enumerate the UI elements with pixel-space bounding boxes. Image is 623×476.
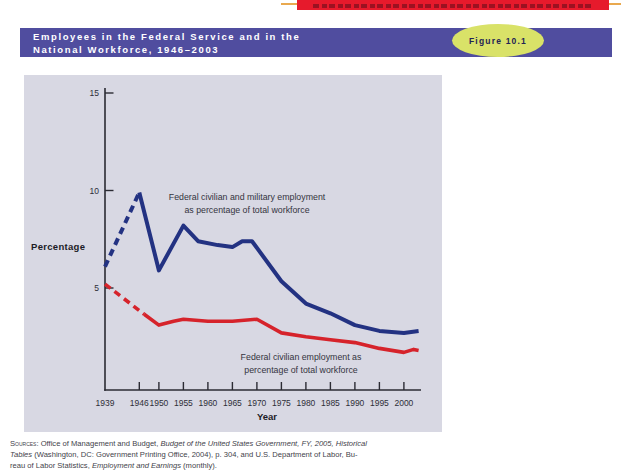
source-cited-title: Budget of the United States Government, … [160,439,367,448]
annotation-line: Federal civilian and military employment [122,191,372,204]
page: Employees in the Federal Service and in … [0,0,623,476]
source-note: Sources: Office of Management and Budget… [10,439,550,471]
svg-text:1985: 1985 [321,398,340,408]
source-text: (monthly). [181,461,217,470]
source-text: (Washington, DC: Government Printing Off… [32,450,357,459]
svg-text:1965: 1965 [223,398,242,408]
source-text: Office of Management and Budget, [39,439,161,448]
svg-text:10: 10 [90,186,100,196]
figure-title-line1: Employees in the Federal Service and in … [33,31,300,42]
svg-text:1955: 1955 [174,398,193,408]
annotation-line: Federal civilian employment as [174,351,428,364]
svg-text:2000: 2000 [394,398,413,408]
x-axis-title: Year [227,411,307,422]
source-note-line1: Sources: Office of Management and Budget… [10,439,550,450]
svg-text:1995: 1995 [370,398,389,408]
svg-text:1975: 1975 [272,398,291,408]
svg-text:1950: 1950 [149,398,168,408]
svg-text:1980: 1980 [296,398,315,408]
svg-text:15: 15 [90,88,100,98]
series-annotation-civilian: Federal civilian employment as percentag… [174,351,428,377]
source-note-line2: Tables (Washington, DC: Government Print… [10,450,550,461]
y-axis-title: Percentage [31,241,85,252]
svg-text:1939: 1939 [96,398,115,408]
source-text: reau of Labor Statistics, [10,461,92,470]
source-note-line3: reau of Labor Statistics, Employment and… [10,461,550,472]
chart-panel: 5101519391946195019551960196519701975198… [24,75,442,432]
svg-text:1946: 1946 [130,398,149,408]
svg-text:1970: 1970 [247,398,266,408]
top-banner-clipped-text [313,4,593,8]
svg-text:1960: 1960 [198,398,217,408]
annotation-line: as percentage of total workforce [122,204,372,217]
svg-text:5: 5 [94,283,99,293]
figure-title-line2: National Workforce, 1946–2003 [33,44,219,55]
source-cited-title: Employment and Earnings [92,461,181,470]
series-annotation-civilian-military: Federal civilian and military employment… [122,191,372,217]
svg-text:1990: 1990 [345,398,364,408]
figure-number-badge: Figure 10.1 [452,24,544,57]
source-cited-title: Tables [10,450,32,459]
annotation-line: percentage of total workforce [174,364,428,377]
figure-number-label: Figure 10.1 [469,36,527,46]
sources-label: Sources: [10,439,39,448]
chart-canvas: 5101519391946195019551960196519701975198… [24,75,442,432]
top-banner [297,0,609,10]
